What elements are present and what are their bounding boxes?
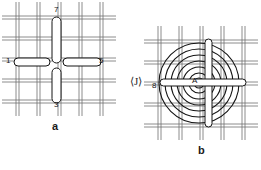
reference-label-7: 7 <box>54 6 58 14</box>
panel-b-bar-horizontal <box>160 79 246 86</box>
reference-label-a-center: A <box>192 77 197 85</box>
angle-marker-icon: ⟨J⟩ <box>130 76 142 87</box>
reference-label-8: 8 <box>152 82 156 90</box>
reference-label-3: 3 <box>54 101 58 109</box>
panel-caption-b: b <box>198 145 205 156</box>
panel-a-bar-vertical-lower <box>52 68 61 103</box>
panel-a-bar-horizontal-left <box>14 58 50 66</box>
panel-caption-a: a <box>52 121 58 132</box>
reference-label-1: 1 <box>6 57 10 65</box>
reference-label-5: 5 <box>99 57 103 65</box>
panel-a-bar-vertical-upper <box>52 17 61 63</box>
technical-figure: 7 3 1 5 8 A ⟨J⟩ a b <box>0 0 261 170</box>
panel-a-bar-horizontal-right <box>63 58 101 66</box>
